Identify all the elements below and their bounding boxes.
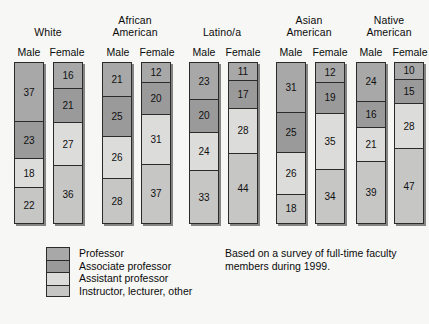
bar-segment[interactable]: 33: [190, 171, 218, 223]
bar-column[interactable]: 12193534: [315, 62, 345, 224]
stacked-bar-chart: WhiteAfricanAmericanLatino/aAsianAmerica…: [0, 0, 429, 324]
legend-item[interactable]: Instructor, lecturer, other: [46, 285, 206, 298]
bar-segment[interactable]: 28: [103, 179, 131, 223]
bar-column[interactable]: 21252628: [102, 62, 132, 224]
bar-segment[interactable]: 28: [229, 109, 257, 154]
bar-segment[interactable]: 25: [277, 113, 305, 153]
source-note-line-1: Based on a survey of full-time faculty: [225, 247, 415, 260]
bar-column[interactable]: 10152847: [394, 62, 424, 224]
bar-segment[interactable]: 19: [316, 83, 344, 114]
legend-item-label: Instructor, lecturer, other: [79, 285, 192, 298]
bar-segment[interactable]: 23: [15, 122, 43, 159]
legend-item[interactable]: Professor: [46, 247, 206, 260]
legend-swatch-icon: [46, 272, 70, 285]
bar-segment[interactable]: 24: [357, 63, 385, 102]
source-note-line-2: members during 1999.: [225, 260, 415, 273]
bar-segment[interactable]: 36: [54, 166, 82, 223]
legend-item-label: Professor: [79, 247, 124, 260]
legend-swatch-icon: [46, 247, 70, 260]
bar-segment[interactable]: 27: [54, 123, 82, 166]
bar-segment[interactable]: 16: [54, 63, 82, 89]
bar-segment[interactable]: 37: [142, 165, 170, 223]
bar-column[interactable]: 31252618: [276, 62, 306, 224]
bar-segment[interactable]: 12: [142, 63, 170, 83]
bar-segment[interactable]: 21: [357, 128, 385, 162]
bar-column[interactable]: 23202433: [189, 62, 219, 224]
bar-column[interactable]: 11172844: [228, 62, 258, 224]
bar-column[interactable]: 16212736: [53, 62, 83, 224]
legend-item[interactable]: Associate professor: [46, 260, 206, 273]
legend-item-label: Associate professor: [79, 260, 171, 273]
bar-segment[interactable]: 23: [190, 63, 218, 100]
bar-column[interactable]: 37231822: [14, 62, 44, 224]
bar-segment[interactable]: 21: [54, 89, 82, 123]
bar-segment[interactable]: 35: [316, 114, 344, 170]
bar-segment[interactable]: 11: [229, 63, 257, 81]
bar-segment[interactable]: 26: [277, 153, 305, 195]
bar-segment[interactable]: 18: [15, 159, 43, 188]
bar-segment[interactable]: 26: [103, 137, 131, 179]
bar-segment[interactable]: 12: [316, 63, 344, 83]
bar-segment[interactable]: 15: [395, 80, 423, 105]
bar-segment[interactable]: 47: [395, 149, 423, 223]
legend-item-label: Assistant professor: [79, 272, 168, 285]
bar-segment[interactable]: 25: [103, 97, 131, 137]
bar-segment[interactable]: 20: [190, 100, 218, 132]
bar-segment[interactable]: 34: [316, 170, 344, 223]
bar-segment[interactable]: 39: [357, 162, 385, 223]
bar-segment[interactable]: 22: [15, 188, 43, 223]
bar-segment[interactable]: 44: [229, 154, 257, 223]
chart-legend: ProfessorAssociate professorAssistant pr…: [46, 247, 206, 297]
legend-swatch-icon: [46, 285, 70, 298]
bar-segment[interactable]: 31: [142, 115, 170, 165]
bar-segment[interactable]: 31: [277, 63, 305, 113]
legend-swatch-icon: [46, 260, 70, 273]
bar-segment[interactable]: 18: [277, 195, 305, 223]
bar-segment[interactable]: 28: [395, 104, 423, 149]
bar-column[interactable]: 12203137: [141, 62, 171, 224]
source-note: Based on a survey of full-time faculty m…: [225, 247, 415, 273]
bar-segment[interactable]: 24: [190, 133, 218, 172]
bar-segment[interactable]: 37: [15, 63, 43, 122]
bar-segment[interactable]: 10: [395, 63, 423, 80]
bar-segment[interactable]: 17: [229, 81, 257, 109]
bar-segment[interactable]: 16: [357, 102, 385, 128]
bar-segment[interactable]: 21: [103, 63, 131, 97]
legend-item[interactable]: Assistant professor: [46, 272, 206, 285]
bar-column[interactable]: 24162139: [356, 62, 386, 224]
bar-segment[interactable]: 20: [142, 83, 170, 115]
